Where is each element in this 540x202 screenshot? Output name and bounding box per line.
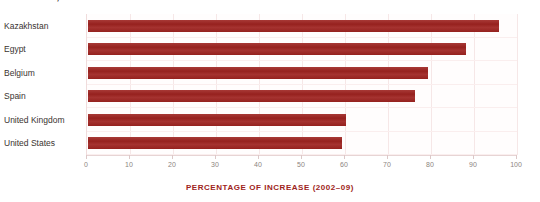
bar: [88, 43, 466, 55]
x-axis-tick: [344, 155, 345, 159]
category-label: Egypt: [4, 44, 76, 54]
gridline-horizontal: [87, 131, 517, 132]
x-axis-tick-label: 100: [510, 161, 522, 168]
bar: [88, 67, 428, 79]
x-axis-tick-label: 70: [383, 161, 391, 168]
category-label: Kazakhstan: [4, 21, 76, 31]
x-axis-tick: [430, 155, 431, 159]
gridline-vertical: [517, 14, 518, 155]
x-axis-tick: [387, 155, 388, 159]
x-axis-tick-label: 50: [297, 161, 305, 168]
bar: [88, 114, 346, 126]
category-label: Belgium: [4, 68, 76, 78]
chart-figure: Kazakhstan, 2002–09 KazakhstanEgyptBelgi…: [0, 0, 540, 202]
x-axis-tick-label: 10: [125, 161, 133, 168]
x-axis-tick-label: 90: [469, 161, 477, 168]
bar: [88, 90, 415, 102]
x-axis-tick-label: 60: [340, 161, 348, 168]
chart-title-strip: Kazakhstan, 2002–09: [0, 0, 300, 5]
gridline-horizontal: [87, 107, 517, 108]
x-axis-tick: [301, 155, 302, 159]
gridline-horizontal: [87, 60, 517, 61]
x-axis-tick: [258, 155, 259, 159]
chart-title: Kazakhstan, 2002–09: [0, 0, 300, 3]
x-axis-title: PERCENTAGE OF INCREASE (2002–09): [0, 183, 540, 192]
x-axis-tick-label: 20: [168, 161, 176, 168]
bar: [88, 137, 342, 149]
x-axis-tick: [473, 155, 474, 159]
x-axis-tick: [86, 155, 87, 159]
plot-area: [86, 14, 517, 155]
x-axis-tick: [129, 155, 130, 159]
category-label: United Kingdom: [4, 115, 76, 125]
category-axis-labels: KazakhstanEgyptBelgiumSpainUnited Kingdo…: [0, 14, 80, 155]
category-label: United States: [4, 138, 76, 148]
x-axis-tick-label: 40: [254, 161, 262, 168]
x-axis-tick: [172, 155, 173, 159]
x-axis-tick-label: 30: [211, 161, 219, 168]
x-axis-tick-label: 80: [426, 161, 434, 168]
gridline-horizontal: [87, 37, 517, 38]
x-axis-tick: [215, 155, 216, 159]
x-axis: 0102030405060708090100: [86, 155, 517, 156]
bar: [88, 20, 499, 32]
category-label: Spain: [4, 91, 76, 101]
gridline-horizontal: [87, 84, 517, 85]
x-axis-tick-label: 0: [84, 161, 88, 168]
x-axis-tick: [516, 155, 517, 159]
